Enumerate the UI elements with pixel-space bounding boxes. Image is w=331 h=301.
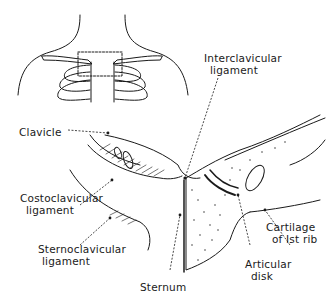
label-sternoclavicular-ligament: Sternoclavicular ligament	[38, 243, 126, 267]
label-interclavicular-ligament: Interclavicular ligament	[204, 52, 282, 76]
label-clavicle: Clavicle	[19, 126, 62, 138]
label-articular-disk: Articular disk	[245, 258, 291, 282]
leader-lines	[68, 78, 290, 270]
label-sternum: Sternum	[140, 281, 186, 293]
label-costoclavicular-ligament: Costoclavicular ligament	[20, 192, 103, 216]
inset-thorax	[18, 15, 188, 102]
label-cartilage-first-rib: Cartilage of Ist rib	[266, 221, 317, 245]
